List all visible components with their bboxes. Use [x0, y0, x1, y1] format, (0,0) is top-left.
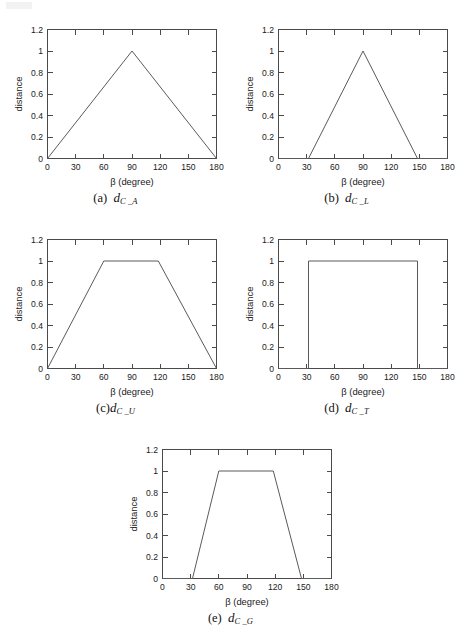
x-tick-marks	[48, 30, 217, 159]
y-tick-labels: 0 0.2 0.4 0.6 0.8 1 1.2	[262, 25, 274, 164]
y-tick-label: 0.6	[262, 89, 274, 99]
y-tick-label: 1.2	[31, 25, 43, 35]
x-tick-label: 150	[412, 162, 427, 172]
y-tick-label: 0.2	[31, 342, 43, 352]
x-tick-label: 150	[181, 162, 196, 172]
y-tick-label: 0.8	[31, 278, 43, 288]
caption-index: (e)	[208, 611, 222, 625]
x-tick-label: 90	[127, 162, 137, 172]
x-tick-labels: 0 30 60 90 120 150 180	[45, 162, 224, 172]
x-axis-title: β (degree)	[341, 386, 384, 397]
y-tick-labels: 0 0.2 0.4 0.6 0.8 1 1.2	[262, 235, 274, 374]
y-tick-label: 0.2	[31, 132, 43, 142]
plot-c: 0 0.2 0.4 0.6 0.8 1 1.2 0 30 60 90 120 1…	[0, 228, 231, 400]
caption-sub: C _A	[120, 196, 138, 206]
x-tick-label: 60	[214, 582, 224, 592]
caption-d: (d) dC _T	[231, 400, 462, 416]
caption-index: (b)	[324, 191, 339, 205]
y-tick-label: 1	[38, 256, 43, 266]
data-series-e	[163, 471, 332, 579]
y-tick-labels: 0 0.2 0.4 0.6 0.8 1 1.2	[31, 235, 43, 374]
x-tick-label: 60	[330, 372, 340, 382]
y-tick-label: 0.8	[146, 488, 158, 498]
y-tick-label: 0.4	[31, 111, 43, 121]
x-tick-marks	[279, 240, 448, 369]
figure-grid: 0 0.2 0.4 0.6 0.8 1 1.2 0 30 60 90 120 1…	[0, 0, 462, 637]
y-tick-label: 1	[269, 46, 274, 56]
y-tick-label: 0	[269, 154, 274, 164]
y-tick-label: 0.2	[262, 132, 274, 142]
caption-sub: C _T	[352, 406, 369, 416]
y-tick-marks	[48, 51, 217, 159]
y-tick-label: 1.2	[31, 235, 43, 245]
plot-e: 0 0.2 0.4 0.6 0.8 1 1.2 0 30 60 90 120 1…	[115, 438, 346, 610]
x-tick-label: 180	[440, 162, 455, 172]
plot-a-svg: 0 0.2 0.4 0.6 0.8 1 1.2 0 30 60 90 120 1…	[0, 18, 231, 190]
panel-c: 0 0.2 0.4 0.6 0.8 1 1.2 0 30 60 90 120 1…	[0, 228, 231, 428]
x-tick-label: 90	[242, 582, 252, 592]
y-tick-label: 0	[38, 154, 43, 164]
y-tick-label: 0	[38, 364, 43, 374]
x-tick-label: 120	[384, 162, 399, 172]
y-tick-label: 0.6	[31, 299, 43, 309]
caption-index: (a)	[93, 191, 107, 205]
plot-frame	[163, 450, 332, 579]
x-tick-label: 60	[99, 372, 109, 382]
x-tick-marks	[48, 240, 217, 369]
y-tick-label: 0.4	[146, 531, 158, 541]
y-tick-label: 0.4	[262, 111, 274, 121]
y-tick-marks	[279, 51, 448, 159]
plot-b: 0 0.2 0.4 0.6 0.8 1 1.2 0 30 60 90 120 1…	[231, 18, 462, 190]
data-series-d	[279, 261, 448, 369]
x-tick-label: 0	[160, 582, 165, 592]
panel-a: 0 0.2 0.4 0.6 0.8 1 1.2 0 30 60 90 120 1…	[0, 18, 231, 218]
data-series-c	[48, 261, 217, 369]
plot-e-svg: 0 0.2 0.4 0.6 0.8 1 1.2 0 30 60 90 120 1…	[115, 438, 346, 610]
plot-a: 0 0.2 0.4 0.6 0.8 1 1.2 0 30 60 90 120 1…	[0, 18, 231, 190]
x-tick-label: 90	[358, 162, 368, 172]
y-tick-label: 1.2	[146, 445, 158, 455]
x-axis-title: β (degree)	[341, 176, 384, 187]
x-tick-label: 120	[153, 162, 168, 172]
y-tick-label: 0.8	[262, 68, 274, 78]
x-tick-label: 120	[153, 372, 168, 382]
x-tick-marks	[279, 30, 448, 159]
y-axis-title: distance	[244, 287, 255, 322]
y-axis-title: distance	[13, 77, 24, 112]
data-series-b	[279, 51, 448, 159]
y-axis-title: distance	[128, 497, 139, 532]
x-axis-title: β (degree)	[110, 176, 153, 187]
x-tick-label: 0	[45, 162, 50, 172]
caption-c: (c)dC _U	[0, 400, 231, 416]
y-tick-marks	[279, 261, 448, 369]
x-tick-label: 180	[440, 372, 455, 382]
y-tick-label: 1	[153, 466, 158, 476]
y-tick-label: 0	[269, 364, 274, 374]
caption-index: (d)	[324, 401, 339, 415]
x-tick-labels: 0 30 60 90 120 150 180	[276, 372, 455, 382]
x-tick-marks	[163, 450, 332, 579]
x-tick-label: 180	[209, 162, 224, 172]
x-tick-label: 150	[181, 372, 196, 382]
x-tick-label: 90	[127, 372, 137, 382]
x-tick-label: 120	[384, 372, 399, 382]
x-tick-label: 60	[99, 162, 109, 172]
x-tick-label: 180	[324, 582, 339, 592]
y-tick-label: 1	[38, 46, 43, 56]
plot-frame	[279, 240, 448, 369]
caption-index: (c)	[96, 401, 110, 415]
caption-sub: C _G	[235, 616, 254, 626]
x-tick-label: 30	[71, 162, 81, 172]
y-tick-labels: 0 0.2 0.4 0.6 0.8 1 1.2	[146, 445, 158, 584]
y-tick-label: 0.6	[262, 299, 274, 309]
x-tick-label: 150	[296, 582, 311, 592]
panel-b: 0 0.2 0.4 0.6 0.8 1 1.2 0 30 60 90 120 1…	[231, 18, 462, 218]
data-series-a	[48, 51, 217, 159]
x-tick-label: 150	[412, 372, 427, 382]
y-axis-title: distance	[244, 77, 255, 112]
x-tick-label: 30	[186, 582, 196, 592]
x-tick-label: 90	[358, 372, 368, 382]
plot-d-svg: 0 0.2 0.4 0.6 0.8 1 1.2 0 30 60 90 120 1…	[231, 228, 462, 400]
y-tick-label: 0.8	[31, 68, 43, 78]
caption-a: (a) dC _A	[0, 190, 231, 206]
